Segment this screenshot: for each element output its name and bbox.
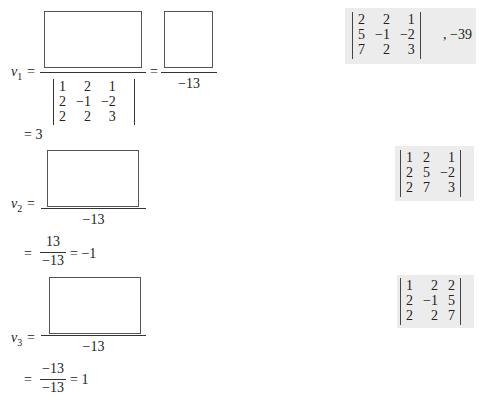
v3-step-equals: = [24,372,32,388]
answer-1: 221 5−1−2 723 , −39 [345,8,476,64]
v3-denominator: −13 [41,339,146,355]
v3-step-numerator: −13 [40,361,66,377]
v2-denominator: −13 [41,212,146,228]
v2-step-denominator: −13 [40,253,66,269]
v3-label: v3 [11,330,22,346]
v1-result: = 3 [24,127,42,143]
v2-label: v2 [11,196,22,212]
v3-step-denominator: −13 [40,380,66,396]
v1-equals: = [27,64,35,80]
answer-1-determinant: 221 5−1−2 723 [352,12,421,59]
v2-equals: = [27,196,35,212]
v1-denominator-determinant: 121 2−1−2 223 [53,79,135,125]
answer-1-suffix: , −39 [443,27,472,43]
v2-step-numerator: 13 [40,234,66,250]
v2-numerator-blank[interactable] [47,150,139,207]
answer-3: 122 2−15 227 [397,275,474,328]
v3-result: = 1 [70,372,88,388]
v2-fraction-bar [41,208,146,209]
v3-numerator-blank[interactable] [49,277,141,334]
answer-2-determinant: 121 25−2 273 [400,150,461,197]
v1-second-fraction-bar [161,72,217,73]
v3-equals: = [27,330,35,346]
v1-second-denominator: −13 [161,76,217,92]
v2-result: = −1 [70,246,96,262]
v2-step-equals: = [24,246,32,262]
v1-equals-2: = [150,64,158,80]
v3-fraction-bar [41,335,146,336]
v1-label: v1 [11,64,22,80]
v1-fraction-bar [40,72,146,73]
v1-numerator-blank[interactable] [44,11,142,68]
answer-2: 121 25−2 273 [395,146,474,201]
v1-second-numerator-blank[interactable] [164,11,213,68]
answer-3-determinant: 122 2−15 227 [400,278,461,325]
